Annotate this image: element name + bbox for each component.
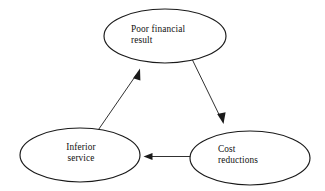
node-label-poor-financial-result: Poor financial result — [131, 24, 205, 46]
arrowhead-to-cost-reductions — [217, 112, 225, 124]
edge-line-left-to-top — [98, 75, 137, 132]
diagram-canvas: Poor financial result Cost reductions In… — [0, 0, 325, 191]
edge-poor-financial-result-to-cost-reductions — [191, 57, 226, 124]
edge-line-top-to-right — [191, 57, 221, 118]
arrowhead-to-inferior-service — [144, 153, 153, 160]
edge-cost-reductions-to-inferior-service — [144, 153, 191, 160]
edge-inferior-service-to-poor-financial-result — [98, 69, 141, 132]
arrowhead-to-poor-financial-result — [133, 69, 140, 81]
node-label-cost-reductions: Cost reductions — [218, 144, 288, 166]
node-label-inferior-service: Inferior service — [48, 142, 114, 164]
